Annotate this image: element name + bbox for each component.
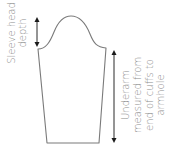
underarm-arrow [112,50,117,143]
sleeve-outline [38,16,106,143]
sleeve-diagram: Sleeve head depth Underarm measured from… [0,0,171,163]
underarm-label-line4: armhole [155,74,166,115]
sleeve-head-depth-label: Sleeve head depth [6,2,28,64]
underarm-label-line2: measured from [132,57,143,133]
sleeve-head-label-line1: Sleeve head [6,2,17,64]
underarm-label-line3: end of cuffs to [144,59,155,131]
sleeve-head-label-line2: depth [17,18,28,47]
underarm-label: Underarm measured from end of cuffs to a… [120,57,166,133]
sleeve-head-depth-arrow [35,17,40,47]
underarm-label-line1: Underarm [120,70,131,120]
